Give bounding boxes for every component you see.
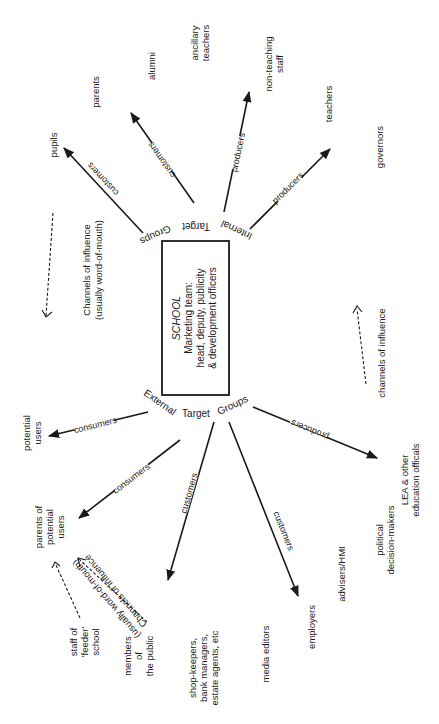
- node-teachers: teachers: [323, 86, 334, 123]
- node-shop-keepers: shop-keepers, bank managers, estate agen…: [187, 630, 220, 705]
- edge-label-consumers: consumers: [73, 415, 119, 435]
- node-feeder-line-2: 'feeder': [79, 627, 90, 658]
- node-members-of-public: members of the public: [122, 635, 155, 676]
- node-potential-users: potential users: [21, 415, 43, 451]
- node-potential-users-line-2: users: [32, 421, 43, 444]
- node-political-line-1: political: [374, 524, 385, 556]
- edge-label-producers: producers: [270, 170, 306, 206]
- node-parents: parents: [90, 76, 101, 108]
- school-title: SCHOOL: [170, 296, 182, 341]
- node-governors: governors: [374, 126, 385, 168]
- edge-to-parents-of-potential-users: consumers: [79, 440, 180, 518]
- node-parents-potential-line-3: users: [55, 515, 66, 538]
- edge-to-alumni: customers: [131, 113, 194, 203]
- node-alumni: alumni: [146, 52, 157, 80]
- edge-label-producers: producers: [229, 131, 247, 173]
- node-media-editors: media editors: [260, 625, 271, 682]
- influence-upper-left-line-1: Channels of influence: [81, 224, 92, 315]
- node-lea-officials: LEA & other education officals: [399, 443, 421, 516]
- node-employers: employers: [306, 605, 317, 649]
- edge-to-potential-users: consumers: [49, 412, 148, 436]
- node-media-editors-label: media editors: [260, 625, 271, 682]
- marketing-diagram: SCHOOL Marketing team: head, deputy, pub…: [0, 0, 439, 724]
- school-line-1: Marketing team:: [183, 282, 194, 354]
- node-non-teaching-staff: non-teaching staff: [263, 37, 285, 92]
- node-ancillary-teachers: ancillary teachers: [189, 25, 211, 62]
- internal-target-word: Target: [182, 221, 210, 232]
- edge-label-consumers: consumers: [111, 461, 153, 496]
- node-governors-label: governors: [374, 126, 385, 168]
- edge-to-non-teaching-staff: producers: [224, 92, 249, 212]
- node-feeder-line-1: staff of: [68, 627, 79, 656]
- node-employers-label: employers: [306, 605, 317, 649]
- influence-right-line: channels of influence: [376, 308, 387, 397]
- edge-to-teachers: producers: [250, 149, 330, 229]
- node-pupils: pupils: [48, 132, 59, 157]
- school-box: SCHOOL Marketing team: head, deputy, pub…: [162, 241, 229, 395]
- node-political-line-2: decision-makers: [385, 505, 396, 574]
- node-political-decision-makers: political decision-makers: [374, 505, 396, 574]
- node-ancillary-line-1: ancillary: [189, 25, 200, 60]
- node-lea-line-1: LEA & other: [399, 455, 410, 506]
- school-line-3: & development officers: [207, 267, 218, 369]
- influence-arrow-upper-left: [42, 213, 53, 317]
- node-shop-line-1: shop-keepers,: [187, 638, 198, 698]
- node-advisers-label: advisers/HMI: [336, 546, 347, 601]
- node-shop-line-3: estate agents, etc: [209, 630, 220, 705]
- external-groups-word: Groups: [215, 393, 249, 417]
- edge-to-employers: customers: [229, 422, 298, 596]
- edge-label-customers: customers: [271, 510, 296, 553]
- node-non-teaching-line-1: non-teaching: [263, 37, 274, 92]
- node-parents-potential-line-2: potential: [44, 509, 55, 545]
- node-parents-of-potential-users: parents of potential users: [33, 506, 66, 549]
- school-line-2: head, deputy, publicity: [195, 269, 206, 368]
- node-non-teaching-line-2: staff: [274, 55, 285, 73]
- node-parents-potential-line-1: parents of: [33, 506, 44, 549]
- node-pupils-label: pupils: [48, 132, 59, 157]
- influence-text-upper-left: Channels of influence (usually word-of-m…: [81, 220, 104, 320]
- influence-text-right: channels of influence: [376, 308, 387, 397]
- edge-to-shop-keepers: customers: [168, 422, 214, 580]
- node-parents-label: parents: [90, 76, 101, 108]
- edge-to-lea: producers: [253, 407, 377, 458]
- node-ancillary-line-2: teachers: [200, 25, 211, 62]
- node-alumni-label: alumni: [146, 52, 157, 80]
- node-advisers-hmi: advisers/HMI: [336, 546, 347, 601]
- node-shop-line-2: bank managers,: [198, 634, 209, 702]
- node-public-line-2: of: [133, 652, 144, 660]
- node-feeder-line-3: school: [90, 628, 101, 655]
- node-staff-feeder-school: staff of 'feeder' school: [68, 627, 101, 658]
- influence-upper-left-line-2: (usually word-of-mouth): [93, 220, 104, 320]
- edge-label-customers: customers: [179, 471, 200, 514]
- external-target-word: Target: [182, 408, 210, 419]
- internal-word: Internal: [219, 218, 254, 242]
- node-potential-users-line-1: potential: [21, 415, 32, 451]
- node-public-line-3: the public: [144, 635, 155, 676]
- node-public-line-1: members: [122, 636, 133, 676]
- influence-arrow-right: [353, 306, 366, 384]
- node-teachers-label: teachers: [323, 86, 334, 123]
- node-lea-line-2: education officals: [410, 443, 421, 516]
